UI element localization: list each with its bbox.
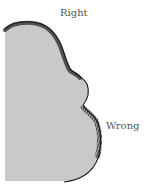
profile-diagram — [0, 0, 149, 190]
right-label: Right — [60, 8, 88, 18]
wrong-label: Wrong — [106, 121, 139, 131]
